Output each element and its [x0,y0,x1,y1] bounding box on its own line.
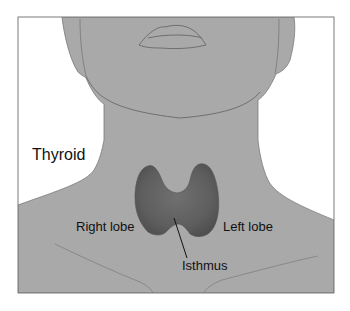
isthmus-label: Isthmus [182,258,228,273]
right-lobe-label: Right lobe [76,219,135,234]
left-lobe-label: Left lobe [223,219,273,234]
thyroid-diagram: Thyroid Right lobe Left lobe Isthmus [0,0,350,311]
diagram-title: Thyroid [32,146,85,164]
